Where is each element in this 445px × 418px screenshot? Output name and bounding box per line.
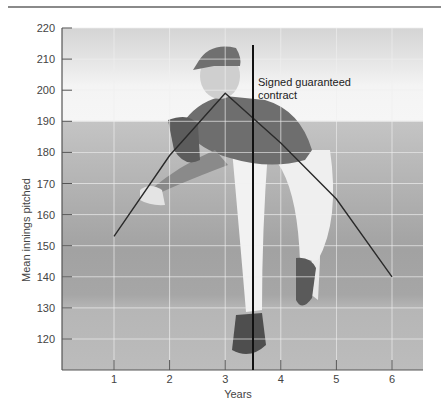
y-tick-label: 180 <box>37 146 55 158</box>
y-tick-label: 190 <box>37 115 55 127</box>
annotation-line-2: contract <box>258 89 297 101</box>
chart: 120130140150160170180190200210220 123456… <box>0 0 445 418</box>
y-tick-label: 170 <box>37 178 55 190</box>
x-tick-label: 3 <box>222 373 228 385</box>
y-tick-label: 200 <box>37 84 55 96</box>
y-tick-label: 140 <box>37 271 55 283</box>
y-tick-label: 160 <box>37 209 55 221</box>
x-tick-label: 2 <box>167 373 173 385</box>
y-tick-label: 120 <box>37 333 55 345</box>
x-tick-label: 6 <box>389 373 395 385</box>
x-tick-label: 1 <box>111 373 117 385</box>
y-tick-label: 130 <box>37 302 55 314</box>
x-tick-label: 4 <box>278 373 284 385</box>
x-axis-title: Years <box>224 388 252 400</box>
x-tick-label: 5 <box>333 373 339 385</box>
y-tick-label: 150 <box>37 240 55 252</box>
y-axis-title: Mean innings pitched <box>20 178 32 282</box>
y-tick-label: 220 <box>37 22 55 34</box>
annotation-line-1: Signed guaranteed <box>258 76 351 88</box>
y-tick-label: 210 <box>37 53 55 65</box>
